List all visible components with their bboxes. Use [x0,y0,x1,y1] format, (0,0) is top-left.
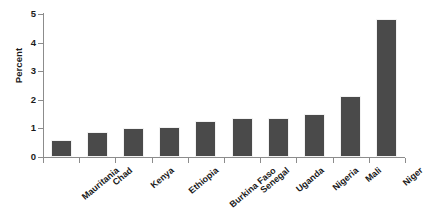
y-axis-tick-label: 0 [24,152,36,162]
y-axis-tick-label: 2 [24,95,36,105]
x-axis-tick [260,158,261,163]
x-axis-tick [224,158,225,163]
y-axis-tick-label: 4 [24,38,36,48]
y-axis-tick-label: 1 [24,123,36,133]
bar [268,118,289,157]
y-axis-tick [38,14,44,15]
x-axis-tick [43,158,44,163]
bar [195,121,216,157]
x-axis-tick [79,158,80,163]
bar [340,96,361,157]
x-axis-tick [152,158,153,163]
y-axis-tick [38,43,44,44]
y-axis-tick [38,128,44,129]
bar [51,140,72,157]
y-axis-tick [38,71,44,72]
x-axis-tick [296,158,297,163]
bar [159,127,180,157]
y-axis-tick-label: 3 [24,66,36,76]
x-axis-tick [188,158,189,163]
y-axis-tick-label: 5 [24,9,36,19]
y-axis-tick [38,100,44,101]
bar [376,19,397,157]
y-axis-line [43,13,44,158]
x-axis-tick [333,158,334,163]
bar [123,128,144,157]
x-axis-tick-label: Kenya [149,166,175,190]
x-axis-tick-label: Mali [364,166,383,184]
x-axis-tick-label: Nigeria [331,166,360,193]
bar [232,118,253,157]
x-axis-tick-label: Uganda [295,166,326,194]
bar [87,132,108,157]
x-axis-tick-label: Niger [401,166,424,188]
y-axis-title: Percent [13,36,24,96]
x-axis-tick [115,158,116,163]
x-axis-tick-label: Ethiopia [187,166,220,196]
bar [304,114,325,157]
x-axis-tick [405,158,406,163]
x-axis-tick [369,158,370,163]
